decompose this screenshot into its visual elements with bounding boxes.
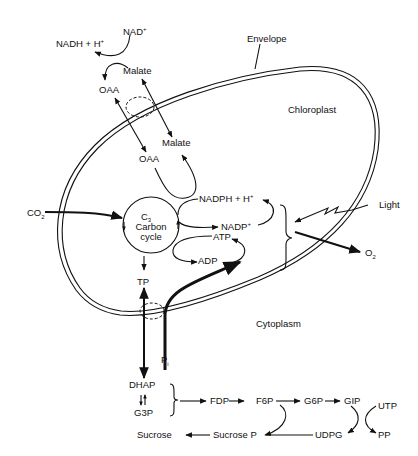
adp-label: ADP	[198, 255, 218, 266]
co2-arrow	[45, 212, 122, 218]
chloroplast-label: Chloroplast	[288, 104, 336, 115]
oaa-chloroplast-label: OAA	[139, 153, 160, 164]
malate-cytoplasm-label: Malate	[123, 65, 152, 76]
malate-oaa-transporter	[126, 97, 154, 117]
cycle-to-nadp-arrow	[179, 222, 218, 227]
envelope-label: Envelope	[247, 33, 287, 44]
dhap-label: DHAP	[129, 379, 155, 390]
o2-label: O2	[365, 247, 376, 260]
malate-transport-arrow	[142, 79, 172, 137]
light-arrow	[295, 205, 368, 222]
co2-label: CO2	[27, 207, 45, 220]
gip-to-udpg-arrow	[348, 406, 358, 433]
sucrose-label: Sucrose	[137, 429, 172, 440]
fdp-label: FDP	[210, 395, 229, 406]
light-label: Light	[379, 199, 400, 210]
nadh-label: NADH + H+	[56, 38, 105, 49]
nadp-to-nadph-arrow	[258, 200, 274, 225]
oaa-malate-loop	[155, 155, 196, 198]
g6p-label: G6P	[304, 395, 323, 406]
g3p-label: G3P	[134, 407, 153, 418]
nad-label: NAD+	[123, 26, 147, 37]
pi-import-arrow	[165, 262, 240, 370]
adp-to-atp-arrow	[232, 239, 245, 263]
o2-arrow	[295, 232, 360, 252]
utp-to-pp-arrow	[366, 406, 377, 433]
cytoplasm-label: Cytoplasm	[256, 318, 301, 329]
f6p-to-sucrose-p-arrow	[265, 405, 286, 435]
pp-label: PP	[378, 429, 391, 440]
photosynthesis-diagram: Envelope Chloroplast Cytoplasm NADH + H+…	[0, 0, 418, 456]
oaa-cytoplasm-label: OAA	[99, 84, 120, 95]
malate-chloroplast-label: Malate	[162, 137, 191, 148]
utp-label: UTP	[378, 400, 397, 411]
f6p-label: F6P	[256, 395, 273, 406]
triose-bracket	[170, 384, 178, 416]
atp-label: ATP	[213, 231, 231, 242]
udpg-label: UDPG	[315, 429, 342, 440]
nadph-label: NADPH + H+	[199, 193, 254, 204]
sucrose-p-label: Sucrose P	[213, 429, 257, 440]
tp-label: TP	[137, 276, 149, 287]
gip-label: GIP	[344, 395, 360, 406]
envelope-pointer	[255, 44, 260, 69]
diagram-canvas: Envelope Chloroplast Cytoplasm NADH + H+…	[0, 0, 418, 456]
nadph-to-cycle	[178, 199, 198, 215]
cycle-label-cycle: cycle	[140, 231, 162, 242]
